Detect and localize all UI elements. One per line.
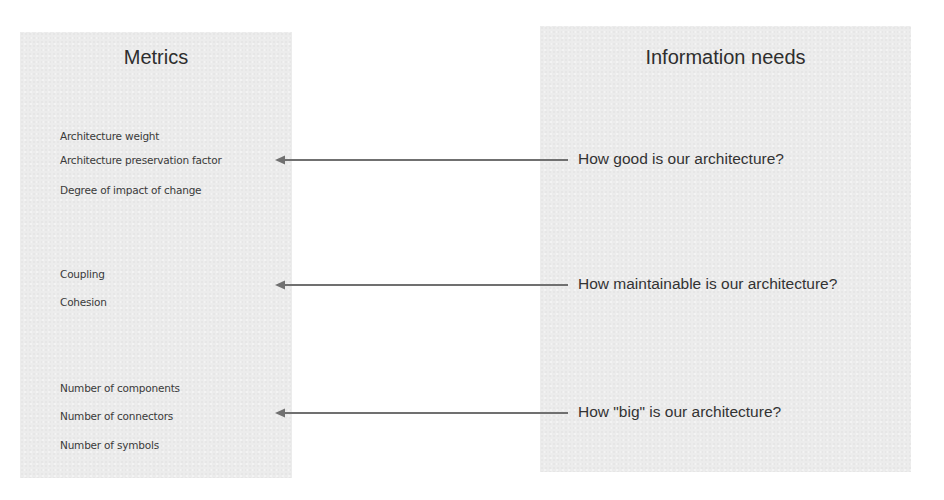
arrow-how-maintainable — [275, 281, 568, 290]
arrow-layer — [0, 0, 944, 500]
arrow-how-big — [275, 409, 568, 418]
arrow-how-good — [275, 156, 568, 165]
